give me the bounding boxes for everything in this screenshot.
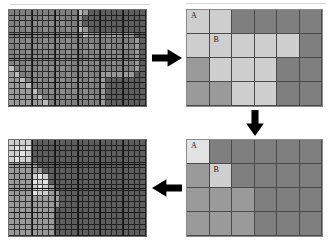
raster-block	[232, 58, 255, 82]
raster-block	[187, 58, 210, 82]
fine-raster-original	[8, 9, 147, 107]
raster-block	[232, 10, 255, 34]
arrow-down-icon	[244, 110, 266, 136]
raster-block	[300, 10, 323, 34]
raster-block	[232, 140, 255, 164]
scan-artifact-left	[10, 4, 150, 5]
raster-block	[187, 212, 210, 236]
raster-block	[210, 188, 233, 212]
raster-block	[277, 82, 300, 106]
raster-block	[300, 34, 323, 58]
raster-block	[255, 34, 278, 58]
block-label-b: B	[214, 165, 219, 175]
arrow-left-icon	[152, 177, 182, 199]
raster-block: B	[210, 34, 233, 58]
raster-block: A	[187, 10, 210, 34]
raster-block	[277, 188, 300, 212]
raster-block	[255, 10, 278, 34]
raster-block: A	[187, 140, 210, 164]
raster-block	[232, 188, 255, 212]
raster-block	[210, 58, 233, 82]
raster-block	[232, 212, 255, 236]
coarse-cell-grid: AB	[187, 140, 322, 236]
raster-block	[277, 140, 300, 164]
raster-block	[277, 10, 300, 34]
raster-cell	[140, 100, 146, 106]
raster-block	[187, 82, 210, 106]
raster-block	[255, 82, 278, 106]
raster-block	[277, 164, 300, 188]
block-label-a: A	[191, 11, 197, 21]
raster-block	[277, 58, 300, 82]
raster-block	[255, 164, 278, 188]
diagram-canvas: ABAB	[0, 0, 332, 244]
arrow-right-icon	[152, 47, 182, 69]
raster-block	[255, 212, 278, 236]
raster-block	[210, 10, 233, 34]
raster-block	[187, 164, 210, 188]
raster-block	[187, 34, 210, 58]
raster-block	[255, 140, 278, 164]
fine-cell-grid	[9, 10, 146, 106]
raster-block	[210, 82, 233, 106]
raster-block	[277, 34, 300, 58]
raster-block	[210, 140, 233, 164]
coarse-raster-aggregated: AB	[186, 9, 323, 107]
raster-block	[187, 188, 210, 212]
raster-cell	[140, 230, 146, 236]
raster-block	[300, 82, 323, 106]
raster-block	[255, 188, 278, 212]
raster-block	[255, 58, 278, 82]
raster-block	[277, 212, 300, 236]
raster-block	[300, 140, 323, 164]
raster-block	[210, 212, 233, 236]
raster-block	[232, 82, 255, 106]
raster-block	[232, 164, 255, 188]
fine-raster-result	[8, 139, 147, 237]
raster-block	[300, 188, 323, 212]
block-label-a: A	[191, 141, 197, 151]
raster-block	[300, 164, 323, 188]
raster-block	[232, 34, 255, 58]
raster-block	[300, 58, 323, 82]
scan-artifact-right	[186, 3, 326, 4]
fine-cell-grid	[9, 140, 146, 236]
coarse-cell-grid: AB	[187, 10, 322, 106]
raster-block	[300, 212, 323, 236]
coarse-raster-reclassified: AB	[186, 139, 323, 237]
block-label-b: B	[214, 35, 219, 45]
raster-block: B	[210, 164, 233, 188]
